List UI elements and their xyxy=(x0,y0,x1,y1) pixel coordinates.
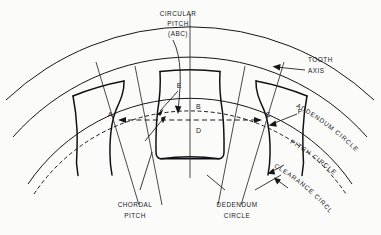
dedendum-circle-label-line2: CIRCLE xyxy=(224,212,250,219)
tooth-axis-leader xyxy=(276,67,305,70)
tooth-axis-label-line2: AXIS xyxy=(308,67,325,74)
right-tooth-left-flank xyxy=(256,81,270,175)
point-label-f: F xyxy=(298,108,302,115)
pitch-circle-label: PITCH CIRCLE xyxy=(289,138,338,177)
left-tooth-axis-line xyxy=(96,62,139,205)
point-label-d: D xyxy=(196,127,201,134)
point-label-c: C xyxy=(265,111,270,118)
circular-pitch-label-line3: (ABC) xyxy=(168,30,188,38)
circular-pitch-arrow-left xyxy=(118,117,126,123)
chordal-pitch-radial-left xyxy=(135,66,162,205)
circular-pitch-label-line2: PITCH xyxy=(167,20,189,27)
chordal-pitch-label-line2: PITCH xyxy=(124,212,146,219)
point-label-e: E xyxy=(177,82,182,89)
dedendum-radial-right xyxy=(218,66,245,205)
right-tooth-crest xyxy=(256,81,307,96)
e-leader-line xyxy=(160,91,178,111)
circular-pitch-leader-arrow xyxy=(175,106,182,114)
gear-tooth-diagram: CIRCULAR PITCH (ABC) TOOTH AXIS ADDENDUM… xyxy=(0,0,381,235)
tooth-axis-label-line1: TOOTH xyxy=(308,56,333,63)
gear-diagram-svg: CIRCULAR PITCH (ABC) TOOTH AXIS ADDENDUM… xyxy=(0,0,381,235)
point-label-a: A xyxy=(108,111,113,118)
dedendum-circle-label-line1: DEDENDUM xyxy=(217,201,258,208)
circular-pitch-label-line1: CIRCULAR xyxy=(160,10,197,17)
circular-pitch-arrow-right xyxy=(254,117,262,123)
tooth-axis-leader-arrow xyxy=(273,64,281,71)
circular-pitch-leader xyxy=(173,40,180,106)
chordal-pitch-leader-lower xyxy=(140,152,152,190)
left-tooth-right-flank xyxy=(110,81,124,175)
left-tooth-crest xyxy=(73,81,124,96)
chordal-pitch-label-line1: CHORDAL xyxy=(118,201,153,208)
point-label-b: B xyxy=(196,103,201,110)
f-leader-arrow xyxy=(269,120,277,126)
